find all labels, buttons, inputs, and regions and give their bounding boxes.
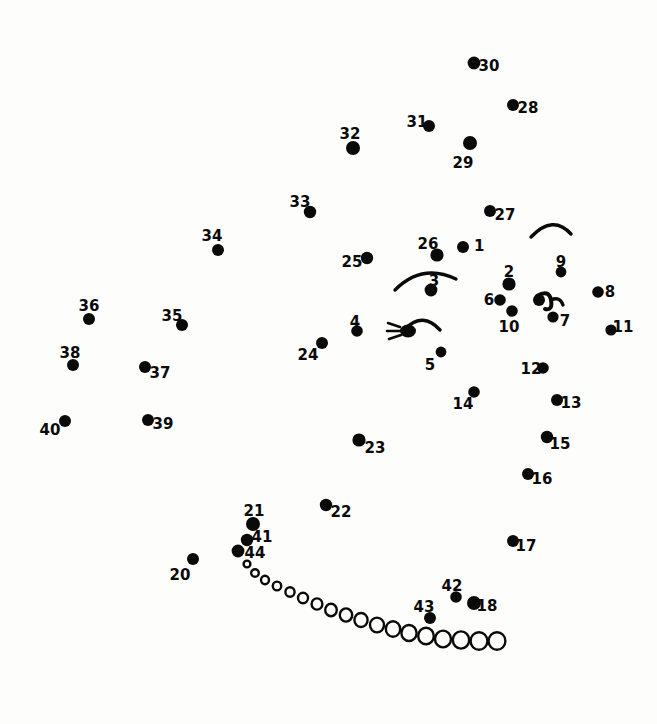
dot-number-label-43: 43	[414, 598, 435, 616]
dot-number-label-38: 38	[60, 344, 81, 362]
dot-marker-44	[232, 545, 245, 558]
dot-number-label-36: 36	[79, 297, 100, 315]
dot-number-label-23: 23	[365, 439, 386, 457]
dot-number-label-3: 3	[429, 272, 439, 290]
dot-number-label-35: 35	[162, 307, 183, 325]
dot-number-label-29: 29	[453, 154, 474, 172]
dot-number-label-32: 32	[340, 125, 361, 143]
dot-number-label-31: 31	[407, 113, 428, 131]
dot-number-label-39: 39	[153, 415, 174, 433]
dot-marker-5	[436, 347, 447, 358]
dot-number-label-13: 13	[561, 394, 582, 412]
puzzle-dot-9[interactable]: 9	[556, 253, 567, 278]
dot-number-label-27: 27	[495, 206, 516, 224]
hook-glyph-head	[533, 294, 545, 306]
dot-number-label-6: 6	[484, 291, 494, 309]
dot-number-label-7: 7	[560, 312, 570, 330]
dot-marker-10	[506, 305, 518, 317]
dot-number-label-11: 11	[613, 318, 634, 336]
dot-number-label-44: 44	[245, 544, 266, 562]
dot-marker-7	[547, 311, 558, 322]
dot-number-label-15: 15	[550, 435, 571, 453]
spider-body	[400, 325, 416, 338]
dot-number-label-16: 16	[532, 470, 553, 488]
puzzle-drawing-surface: 1234567891011121314151617182021222324252…	[0, 0, 657, 724]
dot-number-label-4: 4	[350, 313, 360, 331]
dot-number-label-1: 1	[474, 237, 484, 255]
dot-number-label-25: 25	[342, 253, 363, 271]
dot-number-label-28: 28	[518, 99, 539, 117]
dot-marker-1	[457, 241, 469, 253]
dot-number-label-24: 24	[298, 346, 319, 364]
dot-number-label-40: 40	[40, 421, 61, 439]
dot-marker-25	[361, 252, 373, 264]
dot-number-label-17: 17	[516, 537, 537, 555]
dot-number-label-30: 30	[479, 57, 500, 75]
dot-number-label-21: 21	[244, 502, 265, 520]
dot-number-label-18: 18	[477, 597, 498, 615]
dot-number-label-37: 37	[150, 364, 171, 382]
dot-number-label-34: 34	[202, 227, 223, 245]
dot-number-label-26: 26	[418, 235, 439, 253]
dot-number-label-8: 8	[605, 283, 615, 301]
dot-marker-20	[187, 553, 199, 565]
dot-number-label-42: 42	[442, 577, 463, 595]
dot-number-label-10: 10	[499, 318, 520, 336]
dot-number-label-14: 14	[453, 395, 474, 413]
dot-number-label-9: 9	[556, 253, 566, 271]
dot-marker-34	[212, 244, 224, 256]
dot-number-label-22: 22	[331, 503, 352, 521]
dot-number-label-12: 12	[521, 360, 542, 378]
dot-to-dot-puzzle-canvas: 1234567891011121314151617182021222324252…	[0, 0, 657, 724]
dot-marker-40	[59, 415, 71, 427]
dot-marker-36	[83, 313, 95, 325]
dot-marker-29	[463, 136, 477, 150]
dot-marker-6	[494, 294, 506, 306]
dot-number-label-33: 33	[290, 193, 311, 211]
dot-marker-32	[346, 141, 360, 155]
dot-marker-8	[592, 286, 604, 298]
dot-number-label-2: 2	[504, 263, 514, 281]
puzzle-dot-2[interactable]: 2	[502, 263, 515, 291]
dot-number-label-20: 20	[170, 566, 191, 584]
dot-number-label-5: 5	[425, 356, 435, 374]
